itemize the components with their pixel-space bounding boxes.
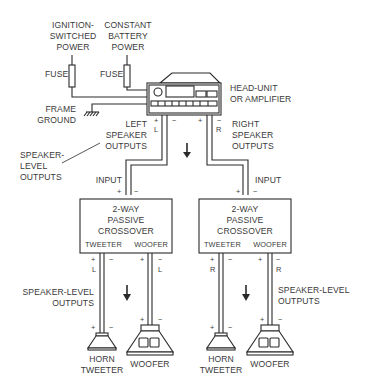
- svg-text:WOOFER: WOOFER: [130, 359, 169, 369]
- button-row-icon: [151, 101, 217, 106]
- svg-text:CROSSOVER: CROSSOVER: [217, 226, 273, 236]
- svg-text:HEAD-UNIT: HEAD-UNIT: [230, 83, 278, 93]
- fuse-icon: [69, 65, 75, 87]
- fuse-icon: [124, 65, 130, 87]
- svg-text:TWEETER: TWEETER: [85, 240, 122, 249]
- svg-text:WOOFER: WOOFER: [134, 240, 168, 249]
- svg-text:+: +: [258, 255, 262, 264]
- svg-text:−: −: [253, 187, 257, 196]
- svg-text:+: +: [236, 187, 240, 196]
- svg-text:+: +: [260, 315, 264, 324]
- down-arrow-icon: [183, 143, 191, 158]
- right-woofer: + − WOOFER: [247, 315, 293, 369]
- svg-text:SPEAKER-: SPEAKER-: [20, 150, 64, 160]
- ignition-power-label: IGNITION- SWITCHED POWER: [50, 20, 97, 52]
- svg-text:−: −: [228, 323, 232, 332]
- right-crossover: INPUT + − 2-WAY PASSIVE CROSSOVER TWEETE…: [199, 175, 291, 274]
- svg-text:−: −: [158, 315, 162, 324]
- svg-text:SPEAKER-LEVEL: SPEAKER-LEVEL: [22, 287, 94, 297]
- svg-text:LEVEL: LEVEL: [20, 161, 47, 171]
- svg-text:SPEAKER-LEVEL: SPEAKER-LEVEL: [278, 285, 350, 295]
- svg-text:−: −: [158, 255, 162, 264]
- svg-text:WOOFER: WOOFER: [250, 359, 289, 369]
- wiring-diagram: IGNITION- SWITCHED POWER CONSTANT BATTER…: [0, 0, 365, 390]
- svg-text:OUTPUTS: OUTPUTS: [20, 172, 62, 182]
- svg-text:+: +: [140, 255, 144, 264]
- svg-text:TWEETER: TWEETER: [200, 365, 243, 375]
- svg-text:−: −: [278, 315, 282, 324]
- svg-text:L: L: [92, 265, 96, 274]
- svg-text:OR AMPLIFIER: OR AMPLIFIER: [230, 94, 291, 104]
- head-unit: HEAD-UNIT OR AMPLIFIER: [147, 73, 291, 115]
- svg-text:+: +: [198, 116, 202, 125]
- svg-text:TWEETER: TWEETER: [81, 365, 124, 375]
- svg-text:OUTPUTS: OUTPUTS: [52, 298, 94, 308]
- svg-text:FUSE: FUSE: [100, 69, 123, 79]
- left-woofer: + − WOOFER: [127, 315, 173, 369]
- svg-text:2-WAY: 2-WAY: [232, 204, 259, 214]
- svg-text:L: L: [158, 265, 162, 274]
- horn-tweeter-icon: [88, 336, 116, 348]
- speaker-level-callout: SPEAKER- LEVEL OUTPUTS: [20, 143, 100, 182]
- svg-text:OUTPUTS: OUTPUTS: [105, 141, 147, 151]
- ignition-fuse: FUSE: [45, 55, 147, 97]
- display-icon: [166, 86, 194, 97]
- svg-text:FUSE: FUSE: [45, 69, 68, 79]
- svg-text:HORN: HORN: [89, 354, 115, 364]
- svg-text:+: +: [210, 255, 214, 264]
- svg-text:−: −: [217, 116, 221, 125]
- right-horn-tweeter: + − HORN TWEETER: [200, 323, 243, 375]
- svg-text:+: +: [91, 255, 95, 264]
- svg-text:INPUT: INPUT: [255, 175, 282, 185]
- svg-text:POWER: POWER: [57, 42, 90, 52]
- svg-text:R: R: [210, 265, 215, 274]
- svg-text:R: R: [216, 125, 221, 134]
- left-speaker-level-outputs-label: SPEAKER-LEVEL OUTPUTS: [22, 287, 94, 308]
- svg-text:OUTPUTS: OUTPUTS: [232, 141, 274, 151]
- down-arrow-icon: [242, 285, 250, 301]
- svg-text:R: R: [276, 265, 281, 274]
- svg-text:OUTPUTS: OUTPUTS: [278, 296, 320, 306]
- svg-text:IGNITION-: IGNITION-: [52, 20, 94, 30]
- svg-text:−: −: [109, 323, 113, 332]
- svg-text:−: −: [276, 255, 280, 264]
- constant-power-label: CONSTANT BATTERY POWER: [104, 20, 152, 52]
- svg-text:PASSIVE: PASSIVE: [227, 215, 264, 225]
- svg-text:RIGHT: RIGHT: [232, 119, 260, 129]
- svg-text:+: +: [91, 323, 95, 332]
- horn-tweeter-icon: [207, 336, 235, 348]
- svg-text:SPEAKER: SPEAKER: [106, 130, 147, 140]
- svg-text:SPEAKER: SPEAKER: [232, 130, 273, 140]
- svg-text:INPUT: INPUT: [96, 175, 123, 185]
- right-speaker-level-outputs-label: SPEAKER-LEVEL OUTPUTS: [278, 285, 350, 306]
- svg-text:2-WAY: 2-WAY: [113, 204, 140, 214]
- svg-text:CROSSOVER: CROSSOVER: [98, 226, 154, 236]
- svg-text:−: −: [228, 255, 232, 264]
- svg-text:PASSIVE: PASSIVE: [108, 215, 145, 225]
- svg-text:+: +: [140, 315, 144, 324]
- svg-text:BATTERY: BATTERY: [108, 31, 148, 41]
- svg-text:CONSTANT: CONSTANT: [104, 20, 152, 30]
- svg-text:+: +: [117, 187, 121, 196]
- svg-text:L: L: [154, 125, 158, 134]
- svg-text:SWITCHED: SWITCHED: [50, 31, 97, 41]
- knob-icon: [154, 88, 162, 96]
- svg-text:+: +: [154, 116, 158, 125]
- svg-text:POWER: POWER: [112, 42, 145, 52]
- ground-icon: [84, 112, 87, 116]
- left-horn-tweeter: + − HORN TWEETER: [81, 323, 124, 375]
- svg-text:−: −: [172, 116, 176, 125]
- svg-text:−: −: [134, 187, 138, 196]
- svg-text:TWEETER: TWEETER: [204, 240, 241, 249]
- svg-text:LEFT: LEFT: [126, 119, 148, 129]
- svg-text:+: +: [210, 323, 214, 332]
- svg-text:FRAME: FRAME: [45, 104, 76, 114]
- svg-text:GROUND: GROUND: [37, 115, 76, 125]
- svg-text:HORN: HORN: [208, 354, 234, 364]
- svg-text:WOOFER: WOOFER: [253, 240, 287, 249]
- down-arrow-icon: [123, 285, 131, 301]
- svg-text:−: −: [109, 255, 113, 264]
- constant-fuse: FUSE: [100, 55, 147, 90]
